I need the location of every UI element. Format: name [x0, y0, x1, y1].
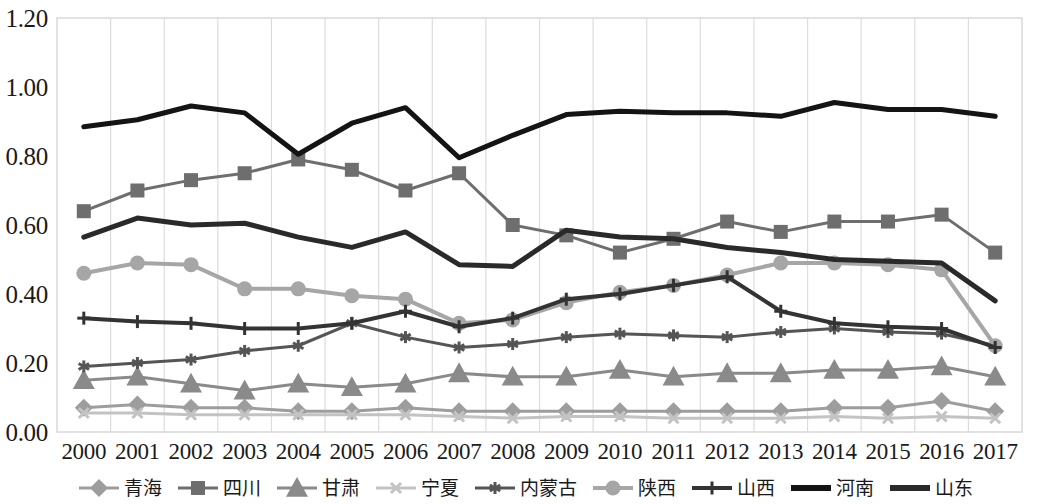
x-axis-tick-label: 2015	[866, 440, 911, 463]
marker-circle	[773, 255, 788, 270]
x-axis-tick-label: 2004	[276, 440, 321, 463]
marker-plus	[706, 482, 719, 495]
legend-label: 青海	[124, 479, 162, 498]
marker-square	[720, 215, 734, 229]
x-axis-tick-label: 2002	[169, 440, 214, 463]
x-axis-tick-label: 2017	[973, 440, 1018, 463]
legend-item[interactable]: 四川	[176, 477, 261, 499]
line-chart: 0.000.200.400.600.801.001.20 青海四川甘肃宁夏内蒙古…	[0, 0, 1050, 504]
marker-square	[452, 166, 466, 180]
legend-marker-square-icon	[176, 477, 220, 499]
legend-marker-line-icon	[789, 477, 833, 499]
marker-circle	[291, 281, 306, 296]
marker-circle	[344, 288, 359, 303]
legend-item[interactable]: 山东	[888, 477, 973, 499]
x-axis-tick-label: 2001	[115, 440, 160, 463]
x-axis-tick-label: 2000	[61, 440, 106, 463]
legend-item[interactable]: 甘肃	[275, 477, 360, 499]
legend-marker-circle-icon	[591, 477, 635, 499]
marker-square	[774, 225, 788, 239]
x-axis-tick-label: 2014	[812, 440, 857, 463]
marker-diamond	[90, 479, 108, 497]
plot-area	[0, 0, 1050, 470]
marker-circle	[398, 292, 413, 307]
chart-legend: 青海四川甘肃宁夏内蒙古陕西山西河南山东	[0, 472, 1050, 504]
x-axis-tick-label: 2016	[919, 440, 964, 463]
marker-circle	[130, 255, 145, 270]
marker-circle	[76, 266, 91, 281]
marker-square	[184, 173, 198, 187]
x-axis-tick-label: 2005	[329, 440, 374, 463]
legend-marker-line-icon	[888, 477, 932, 499]
x-axis-tick-label: 2003	[222, 440, 267, 463]
marker-square	[238, 166, 252, 180]
legend-marker-asterisk-icon	[473, 477, 517, 499]
legend-item[interactable]: 陕西	[591, 477, 676, 499]
x-axis-tick-label: 2012	[705, 440, 750, 463]
marker-circle	[606, 481, 621, 496]
marker-circle	[237, 281, 252, 296]
marker-square	[77, 204, 91, 218]
marker-square	[398, 184, 412, 198]
legend-label: 宁夏	[421, 479, 459, 498]
marker-square	[988, 246, 1002, 260]
legend-label: 山东	[935, 479, 973, 498]
legend-marker-plus-icon	[690, 477, 734, 499]
x-axis-tick-label: 2006	[383, 440, 428, 463]
marker-square	[881, 215, 895, 229]
legend-item[interactable]: 宁夏	[374, 477, 459, 499]
marker-square	[506, 218, 520, 232]
marker-square	[191, 481, 205, 495]
x-axis-tick-label: 2007	[437, 440, 482, 463]
marker-square	[130, 184, 144, 198]
legend-label: 陕西	[638, 479, 676, 498]
marker-square	[935, 208, 949, 222]
legend-marker-triangle-icon	[275, 477, 319, 499]
marker-square	[613, 246, 627, 260]
marker-square	[827, 215, 841, 229]
legend-marker-diamond-icon	[77, 477, 121, 499]
legend-item[interactable]: 山西	[690, 477, 775, 499]
legend-label: 山西	[737, 479, 775, 498]
x-axis-tick-label: 2011	[652, 440, 696, 463]
marker-square	[345, 163, 359, 177]
x-axis-tick-label: 2013	[758, 440, 803, 463]
legend-label: 甘肃	[322, 479, 360, 498]
legend-marker-x-icon	[374, 477, 418, 499]
legend-label: 河南	[836, 479, 874, 498]
legend-item[interactable]: 青海	[77, 477, 162, 499]
legend-item[interactable]: 内蒙古	[473, 477, 577, 499]
marker-circle	[184, 257, 199, 272]
x-axis-tick-label: 2010	[598, 440, 643, 463]
legend-label: 内蒙古	[520, 479, 577, 498]
legend-label: 四川	[223, 479, 261, 498]
x-axis-tick-label: 2009	[544, 440, 589, 463]
legend-item[interactable]: 河南	[789, 477, 874, 499]
x-axis-tick-label: 2008	[490, 440, 535, 463]
